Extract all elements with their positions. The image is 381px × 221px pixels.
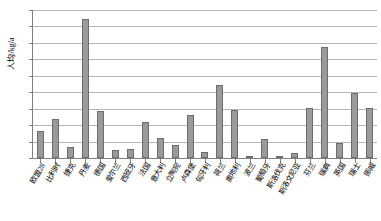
y-axis-tick-mark	[29, 59, 32, 60]
bar	[172, 145, 179, 158]
bar	[67, 147, 74, 158]
bar	[231, 110, 238, 158]
x-axis-label-slot: 西班牙	[122, 162, 137, 221]
bar	[216, 85, 223, 159]
x-axis-tick-label: 西班牙	[119, 162, 136, 184]
bar	[142, 122, 149, 158]
bar-slot	[168, 10, 183, 158]
bar	[112, 150, 119, 158]
x-axis-label-slot: 立陶宛	[167, 162, 182, 221]
x-axis-label-slot: 卢森堡	[182, 162, 197, 221]
bar-slot	[108, 10, 123, 158]
y-axis-tick-mark	[29, 26, 32, 27]
bar	[37, 131, 44, 158]
bar-chart: 人均/kg/a 9008007006005004003002001000 欧盟2…	[0, 0, 381, 221]
bar	[127, 149, 134, 158]
x-axis-tick-label: 英国	[333, 162, 346, 178]
bar-slot	[78, 10, 93, 158]
x-axis-tick-label: 立陶宛	[164, 162, 181, 184]
bar-slot	[287, 10, 302, 158]
x-axis-label-slot: 捷克	[62, 162, 77, 221]
bar	[366, 108, 373, 158]
bar	[351, 93, 358, 158]
y-axis-tick-mark	[29, 142, 32, 143]
plot-wrapper: 9008007006005004003002001000	[32, 10, 377, 159]
x-axis-tick-label: 瑞士	[348, 162, 361, 178]
x-axis-tick-label: 爱尔兰	[104, 162, 121, 184]
bar-slot	[183, 10, 198, 158]
bar	[97, 111, 104, 158]
x-axis-labels: 欧盟28比利时捷克丹麦德国爱尔兰西班牙法国意大利立陶宛卢森堡匈牙利荷兰奥地利波兰…	[32, 162, 377, 221]
bar-slot	[227, 10, 242, 158]
x-axis-tick-label: 捷克	[63, 162, 76, 178]
x-axis-label-slot: 德国	[92, 162, 107, 221]
bar	[306, 108, 313, 158]
plot-area	[32, 10, 377, 159]
bar-series	[33, 10, 377, 158]
x-axis-label-slot: 法国	[137, 162, 152, 221]
x-axis-label-slot: 比利时	[47, 162, 62, 221]
y-axis-tick-mark	[29, 76, 32, 77]
x-axis-tick-label: 欧盟28	[29, 162, 46, 184]
x-axis-label-slot: 匈牙利	[197, 162, 212, 221]
x-axis-label-slot: 瑞典	[317, 162, 332, 221]
x-axis-tick-label: 荷兰	[213, 162, 226, 178]
bar-slot	[302, 10, 317, 158]
x-axis-label-slot: 爱尔兰	[107, 162, 122, 221]
y-axis-tick-mark	[29, 10, 32, 11]
bar-slot	[197, 10, 212, 158]
x-axis-tick-label: 意大利	[149, 162, 166, 184]
bar-slot	[153, 10, 168, 158]
bar	[157, 138, 164, 158]
bar-slot	[272, 10, 287, 158]
bar	[201, 152, 208, 158]
bar-slot	[242, 10, 257, 158]
bar	[187, 115, 194, 158]
y-axis-title: 人均/kg/a	[5, 18, 16, 90]
x-axis-label-slot: 荷兰	[212, 162, 227, 221]
x-axis-label-slot: 芬兰	[302, 162, 317, 221]
x-axis-label-slot: 英国	[332, 162, 347, 221]
x-axis-tick-label: 比利时	[44, 162, 61, 184]
x-axis-label-slot: 瑞士	[347, 162, 362, 221]
bar-slot	[257, 10, 272, 158]
bar-slot	[332, 10, 347, 158]
y-axis-tick-mark	[29, 125, 32, 126]
bar	[52, 119, 59, 158]
bar-slot	[347, 10, 362, 158]
bar	[246, 156, 253, 158]
x-axis-tick-label: 波兰	[243, 162, 256, 178]
x-axis-tick-label: 丹麦	[78, 162, 91, 178]
bar	[261, 139, 268, 158]
bar-slot	[123, 10, 138, 158]
x-axis-tick-label: 奥地利	[224, 162, 241, 184]
x-axis-tick-label: 瑞典	[318, 162, 331, 178]
bar	[321, 47, 328, 158]
bar	[336, 143, 343, 158]
x-axis-tick-label: 匈牙利	[194, 162, 211, 184]
x-axis-tick-label: 芬兰	[303, 162, 316, 178]
bar	[276, 156, 283, 158]
bar-slot	[63, 10, 78, 158]
x-axis-label-slot: 意大利	[152, 162, 167, 221]
x-axis-label-slot: 葡萄牙	[257, 162, 272, 221]
x-axis-tick-label: 卢森堡	[179, 162, 196, 184]
bar-slot	[93, 10, 108, 158]
bar-slot	[362, 10, 377, 158]
y-axis-tick-mark	[29, 92, 32, 93]
x-axis-label-slot: 丹麦	[77, 162, 92, 221]
bar	[291, 153, 298, 158]
bar	[82, 19, 89, 158]
x-axis-tick-label: 挪威	[363, 162, 376, 178]
bar-slot	[48, 10, 63, 158]
bar-slot	[317, 10, 332, 158]
x-axis-label-slot: 欧盟28	[32, 162, 47, 221]
x-axis-label-slot: 波兰	[242, 162, 257, 221]
x-axis-tick-label: 德国	[93, 162, 106, 178]
x-axis-label-slot: 奥地利	[227, 162, 242, 221]
bar-slot	[33, 10, 48, 158]
x-axis-label-slot: 挪威	[362, 162, 377, 221]
x-axis-tick-label: 法国	[138, 162, 151, 178]
bar-slot	[138, 10, 153, 158]
y-axis-tick-mark	[29, 43, 32, 44]
